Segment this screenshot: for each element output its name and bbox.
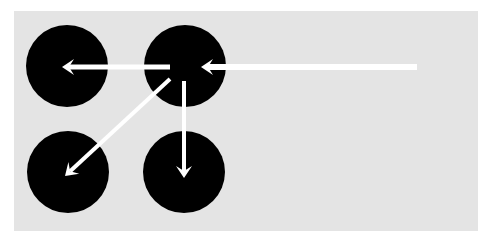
- edge-group: [62, 59, 417, 178]
- arrow-incoming: [201, 59, 417, 75]
- flow-diagram: [0, 0, 486, 238]
